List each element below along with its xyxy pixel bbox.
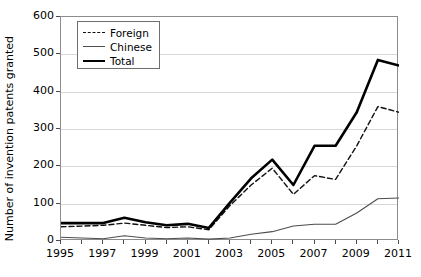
y-axis-tick-label: 500 xyxy=(18,46,54,59)
y-axis-tick-label: 300 xyxy=(18,121,54,134)
x-axis-tick-label: 2001 xyxy=(167,247,207,260)
x-axis-tick-label: 1997 xyxy=(82,247,122,260)
y-axis-tick-label: 100 xyxy=(18,196,54,209)
legend-item-total: Total xyxy=(83,54,154,68)
y-axis-tick-label: 400 xyxy=(18,84,54,97)
x-axis-tick-label: 2005 xyxy=(251,247,291,260)
y-axis-tick-label: 600 xyxy=(18,9,54,22)
y-axis-title: Number of invention patents granted xyxy=(0,0,18,277)
x-axis-tick-label: 1999 xyxy=(125,247,165,260)
x-axis-tick-label: 2011 xyxy=(378,247,418,260)
y-axis-tick-label: 0 xyxy=(18,233,54,246)
legend-swatch-total-icon xyxy=(83,56,105,66)
x-axis-tick-label: 2003 xyxy=(209,247,249,260)
x-axis-tick-label: 2007 xyxy=(294,247,334,260)
legend-item-chinese: Chinese xyxy=(83,40,154,54)
chart-container: Number of invention patents granted 0100… xyxy=(0,0,421,277)
legend-swatch-chinese-icon xyxy=(83,42,105,52)
legend-label-total: Total xyxy=(110,55,135,67)
legend-label-chinese: Chinese xyxy=(110,41,152,53)
x-axis-tick-label: 1995 xyxy=(40,247,80,260)
y-axis-tick-label: 200 xyxy=(18,158,54,171)
legend-swatch-foreign-icon xyxy=(83,28,105,38)
x-axis-tick-label: 2009 xyxy=(336,247,376,260)
series-line-total xyxy=(61,60,399,228)
legend-label-foreign: Foreign xyxy=(110,27,149,39)
legend: Foreign Chinese Total xyxy=(77,21,160,69)
legend-item-foreign: Foreign xyxy=(83,26,154,40)
